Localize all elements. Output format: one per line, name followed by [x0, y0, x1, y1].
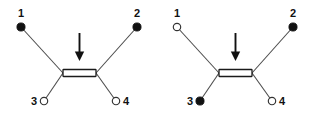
vertex-right-4 [268, 97, 275, 104]
bond-left-c1 [21, 27, 63, 73]
bond-left-c2 [96, 27, 137, 73]
alkene-diagram-canvas: 1 2 3 4 1 2 3 4 [0, 0, 312, 124]
label-left-3: 3 [31, 95, 37, 107]
bond-right-c1 [177, 27, 219, 73]
vertex-left-4 [112, 97, 119, 104]
bond-left-c4 [96, 73, 116, 101]
arrow-down-right [231, 33, 240, 61]
label-left-4: 4 [123, 95, 130, 107]
label-left-2: 2 [134, 7, 140, 19]
label-right-3: 3 [187, 95, 193, 107]
double-bond-left [63, 70, 96, 77]
label-right-2: 2 [290, 7, 296, 19]
structure-right: 1 2 3 4 [173, 7, 297, 107]
vertex-right-3 [196, 97, 204, 105]
vertex-left-2 [133, 23, 141, 31]
arrow-down-left [75, 33, 84, 61]
vertex-right-2 [289, 23, 297, 31]
label-left-1: 1 [18, 7, 24, 19]
bond-right-c4 [252, 73, 272, 101]
vertex-left-3 [40, 97, 47, 104]
label-right-4: 4 [279, 95, 286, 107]
label-right-1: 1 [174, 7, 180, 19]
bond-right-c2 [252, 27, 293, 73]
figure-root: 1 2 3 4 1 2 3 4 [0, 0, 312, 124]
vertex-right-1 [173, 23, 180, 30]
vertex-left-1 [17, 23, 25, 31]
structure-left: 1 2 3 4 [17, 7, 141, 107]
double-bond-right [219, 70, 252, 77]
bond-left-c3 [44, 73, 63, 101]
bond-right-c3 [200, 73, 219, 101]
